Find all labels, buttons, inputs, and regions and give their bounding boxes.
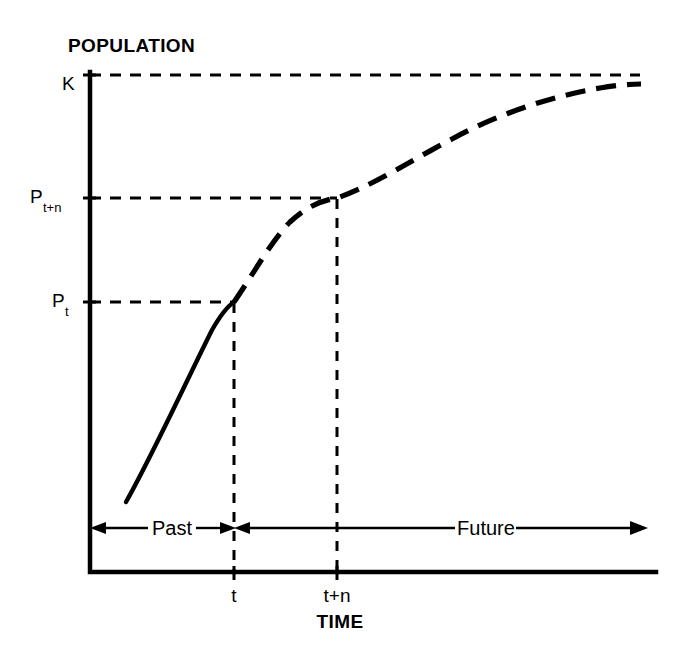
y-tick-label-pt-sub: t [65,304,69,319]
curve-future-dashed [234,84,641,302]
y-tick-label-pt: P t [52,290,69,319]
y-tick-label-ptn-sub: t+n [43,200,61,215]
y-tick-label-ptn: P t+n [30,186,61,215]
future-label: Future [457,517,515,539]
y-tick-label-ptn-base: P [30,186,43,207]
x-tick-label-t: t [231,585,237,606]
curve-past-solid [126,302,234,502]
population-growth-figure: POPULATION TIME K P t+n P t t t+n Past F… [0,0,675,659]
y-tick-label-pt-base: P [52,290,65,311]
y-tick-label-k: K [62,73,75,94]
future-arrow-right-head [630,521,648,535]
future-span-arrow [234,521,648,535]
figure-canvas: POPULATION TIME K P t+n P t t t+n Past F… [0,0,675,659]
y-axis-title: POPULATION [68,35,195,56]
x-tick-label-tn: t+n [324,585,351,606]
future-arrow-left-head [234,522,250,534]
past-label: Past [152,517,192,539]
axis-lines [90,72,656,572]
past-arrow-left-head [90,522,106,534]
x-axis-title: TIME [317,611,364,632]
